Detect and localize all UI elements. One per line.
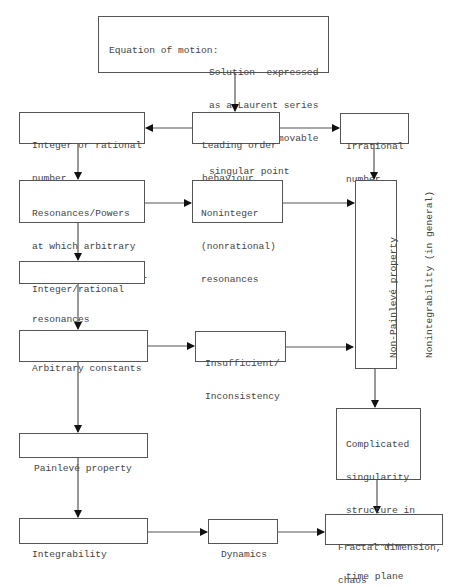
node-label: Integrability xyxy=(32,549,147,560)
node-label: Integer or rational xyxy=(32,140,144,151)
node-label: singularity xyxy=(346,472,420,483)
node-label: Dynamics xyxy=(221,549,277,560)
node-irrational: Irrational number xyxy=(340,113,409,144)
node-integer-rational: Integer or rational number xyxy=(19,112,145,144)
node-label: Insufficient/ xyxy=(205,358,285,369)
node-leading-order: Leading order behaviour xyxy=(192,112,280,144)
node-label: Painlevé property xyxy=(34,463,147,474)
node-label: Complicated xyxy=(346,439,420,450)
node-arbitrary-constants: Arbitrary constants xyxy=(19,330,148,362)
node-start: Equation of motion: Solution expressed a… xyxy=(98,16,329,73)
node-non-painleve: Non-Painlevé property Nonintegrability (… xyxy=(355,180,397,369)
node-label: Arbitrary constants xyxy=(32,363,147,374)
node-label: Inconsistency xyxy=(205,391,285,402)
node-label: resonances xyxy=(32,315,144,325)
node-label: Irrational xyxy=(346,141,408,152)
node-insufficient: Insufficient/ Inconsistency xyxy=(195,331,286,362)
node-label: resonances xyxy=(201,274,282,285)
node-label: Non-Painlevé property xyxy=(388,191,400,358)
node-label: Noninteger xyxy=(201,208,282,219)
node-label: Fractal dimension, xyxy=(338,542,442,553)
node-integer-resonances: Integer/rational resonances xyxy=(19,261,145,284)
node-dynamics: Dynamics xyxy=(208,519,278,544)
node-label: chaos xyxy=(338,575,442,586)
node-painleve: Painlevé property xyxy=(19,433,148,458)
node-start-line: as a Laurent series xyxy=(209,100,318,111)
node-label: Leading order xyxy=(202,140,279,151)
node-noninteger: Noninteger (nonrational) resonances xyxy=(192,180,283,223)
node-resonances: Resonances/Powers at which arbitrary par… xyxy=(19,180,145,223)
node-label: Integer/rational xyxy=(32,285,144,295)
node-label: at which arbitrary xyxy=(32,241,144,252)
node-complicated: Complicated singularity structure in the… xyxy=(336,408,421,480)
node-fractal: Fractal dimension, chaos xyxy=(325,514,443,545)
node-start-line: Solution expressed xyxy=(209,67,318,78)
node-label: (nonrational) xyxy=(201,241,282,252)
node-integrability: Integrability xyxy=(19,518,148,544)
node-label: Resonances/Powers xyxy=(32,208,144,219)
node-label: Nonintegrability (in general) xyxy=(424,191,436,358)
